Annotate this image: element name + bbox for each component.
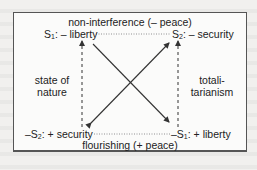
top-label: non-interference (– peace) bbox=[13, 16, 247, 28]
right-side-line1: totali- bbox=[184, 74, 240, 86]
diagonal-arrow-tl-br bbox=[93, 44, 169, 122]
left-side-label: state of nature bbox=[30, 74, 74, 98]
node-symbol: S bbox=[44, 28, 51, 40]
diagonal-arrow-bl-tr bbox=[91, 43, 169, 123]
node-top-left: S1: – liberty bbox=[44, 28, 98, 43]
bottom-label: flourishing (+ peace) bbox=[13, 139, 247, 151]
node-text: : – security bbox=[183, 28, 234, 40]
left-side-line1: state of bbox=[30, 74, 74, 86]
node-top-right: S2: – security bbox=[172, 28, 234, 43]
right-side-label: totali- tarianism bbox=[184, 74, 240, 98]
right-side-line2: tarianism bbox=[184, 86, 240, 98]
node-text: : – liberty bbox=[55, 28, 98, 40]
left-side-line2: nature bbox=[30, 86, 74, 98]
node-symbol: S bbox=[172, 28, 179, 40]
